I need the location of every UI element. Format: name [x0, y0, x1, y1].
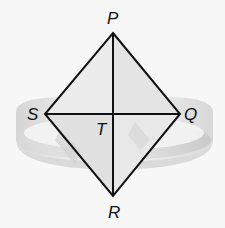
intersection-label-t: T	[96, 120, 108, 139]
rhombus-edges	[45, 33, 180, 196]
rhombus-diagram: P S Q T R	[0, 0, 225, 228]
vertex-label-r: R	[108, 203, 120, 222]
vertex-label-s: S	[27, 105, 39, 124]
vertex-label-p: P	[107, 9, 119, 28]
diagram-canvas: P S Q T R	[0, 0, 225, 228]
vertex-label-q: Q	[184, 105, 197, 124]
